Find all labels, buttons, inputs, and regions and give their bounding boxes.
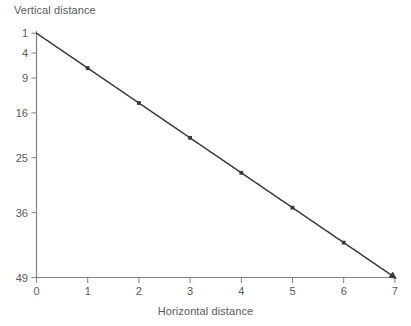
data-point-marker [86, 66, 90, 70]
x-tick-label: 3 [187, 285, 193, 297]
x-tick-label: 0 [33, 285, 39, 297]
x-tick-label: 1 [85, 285, 91, 297]
data-point-marker [342, 241, 346, 245]
y-tick-label: 9 [22, 72, 28, 84]
plot-area: 1 4 9 16 25 36 49 0 1 2 3 4 [0, 0, 411, 326]
y-tick-label: 25 [16, 152, 28, 164]
data-point-marker [188, 136, 192, 140]
x-tick-label: 6 [341, 285, 347, 297]
y-tick-label: 36 [16, 207, 28, 219]
x-axis-title: Horizontal distance [0, 305, 411, 317]
y-tick-label: 49 [16, 272, 28, 284]
x-tick-label: 2 [136, 285, 142, 297]
chart-container: Vertical distance 1 4 9 16 25 36 49 [0, 0, 411, 326]
y-tick-group: 1 4 9 16 25 36 49 [16, 27, 37, 283]
data-point-marker [291, 206, 295, 210]
x-tick-label: 4 [238, 285, 244, 297]
y-tick-label: 16 [16, 107, 28, 119]
data-series-line [37, 33, 395, 277]
x-tick-label: 5 [289, 285, 295, 297]
x-tick-label: 7 [392, 285, 398, 297]
data-point-marker [137, 101, 141, 105]
data-point-marker [239, 171, 243, 175]
x-tick-group: 0 1 2 3 4 5 6 7 [33, 278, 398, 298]
y-tick-label: 1 [22, 27, 28, 39]
y-tick-label: 4 [22, 47, 28, 59]
